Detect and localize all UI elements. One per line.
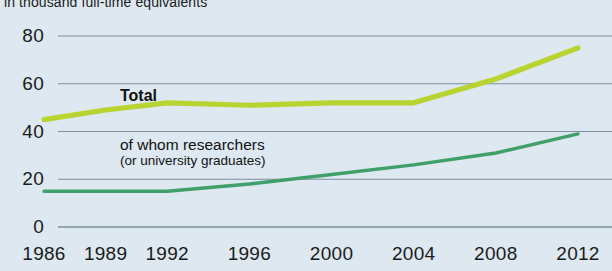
x-axis-tick-label: 2004 <box>392 243 435 265</box>
series-label-researchers-main: of whom researchers <box>120 136 265 153</box>
y-axis-tick-label: 60 <box>0 73 44 95</box>
x-axis-tick-label: 2008 <box>474 243 517 265</box>
x-axis-tick-label: 2000 <box>310 243 353 265</box>
chart-plot-area <box>0 0 612 271</box>
y-axis-tick-label: 0 <box>0 216 44 238</box>
x-axis-tick-label: 1986 <box>22 243 65 265</box>
series-label-researchers: of whom researchers (or university gradu… <box>120 136 266 168</box>
x-axis-tick-label: 1996 <box>228 243 271 265</box>
series-label-total: Total <box>120 87 157 105</box>
x-axis-tick-label: 1992 <box>145 243 188 265</box>
x-axis-tick-label: 1989 <box>84 243 127 265</box>
chart-root: in thousand full-time equivalents 020406… <box>0 0 612 271</box>
y-axis-tick-label: 40 <box>0 121 44 143</box>
data-lines <box>44 48 578 191</box>
y-axis-tick-label: 80 <box>0 25 44 47</box>
y-axis-tick-label: 20 <box>0 168 44 190</box>
series-label-researchers-sub: (or university graduates) <box>120 153 266 168</box>
x-axis-tick-label: 2012 <box>556 243 599 265</box>
